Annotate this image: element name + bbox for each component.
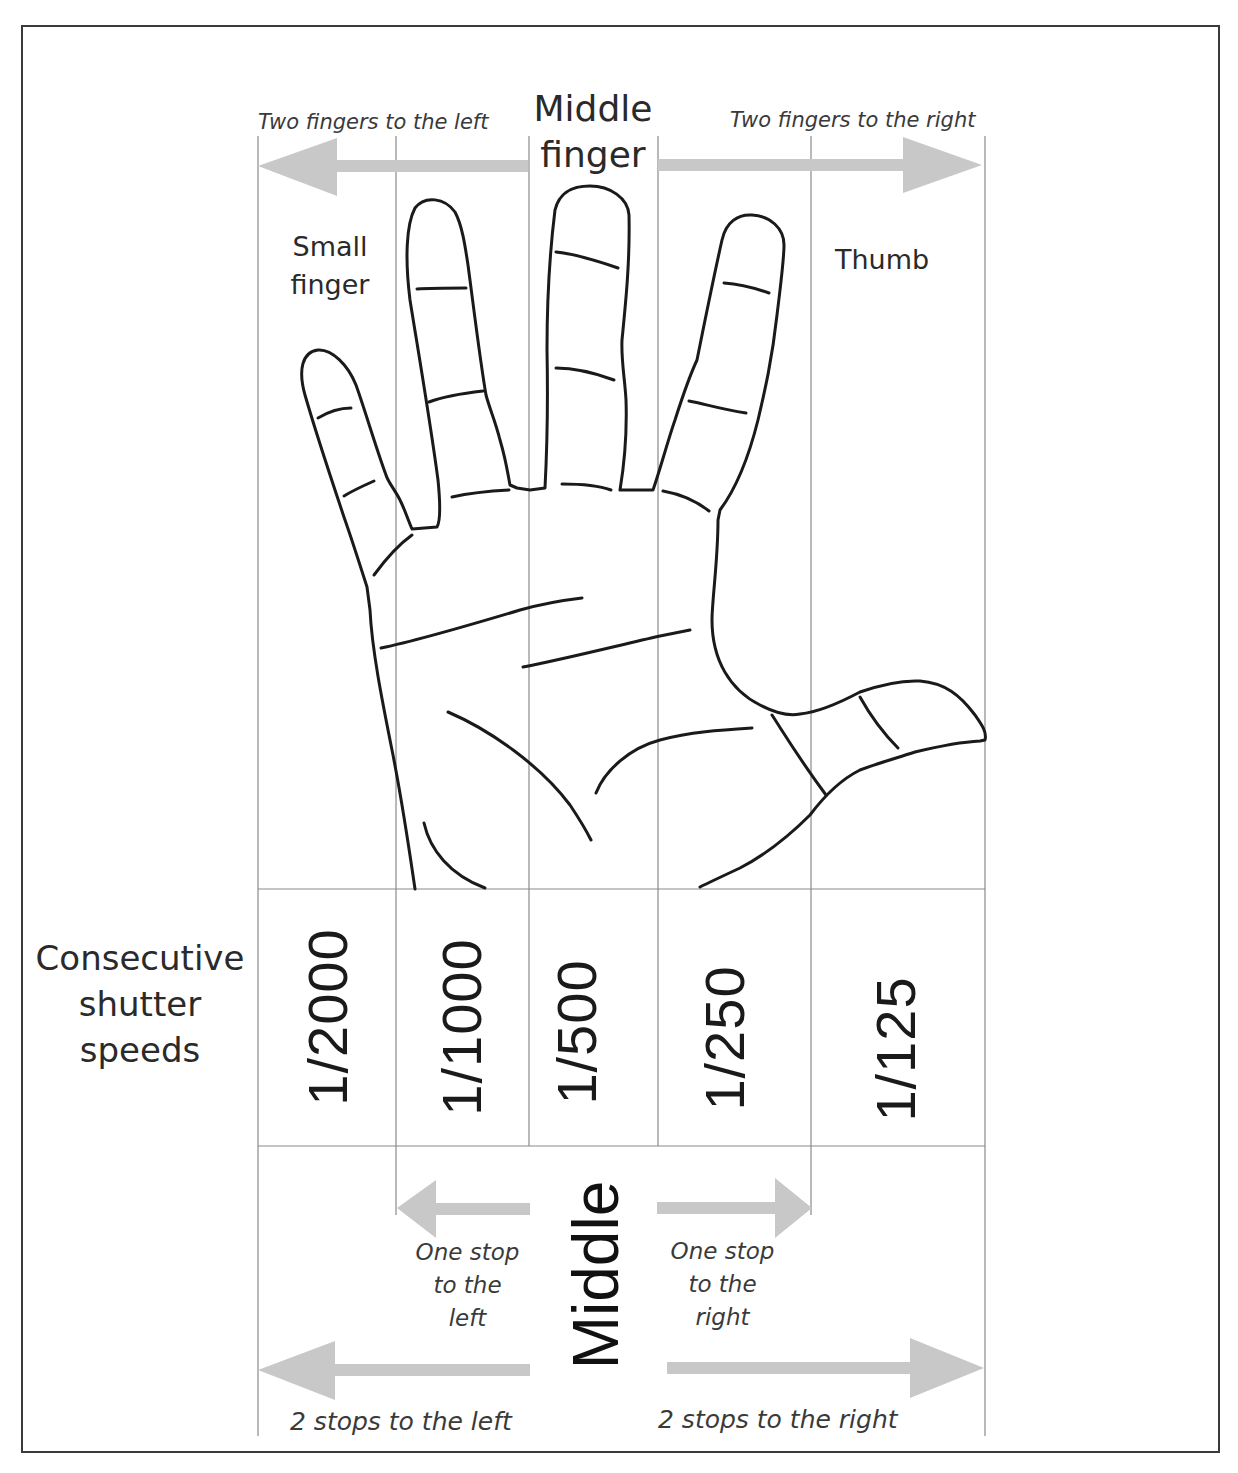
one-stop-left-line1: One stop bbox=[400, 1236, 535, 1269]
two-fingers-left-label: Two fingers to the left bbox=[258, 110, 488, 134]
hand-outline-icon bbox=[302, 186, 986, 889]
two-fingers-right-label: Two fingers to the right bbox=[730, 108, 975, 132]
two-stops-left-label: 2 stops to the left bbox=[290, 1408, 512, 1437]
top-right-arrow-icon bbox=[658, 137, 982, 193]
one-stop-right-line3: right bbox=[655, 1301, 790, 1334]
middle-finger-label-line1: Middle bbox=[528, 86, 658, 132]
small-finger-label: Small finger bbox=[280, 228, 380, 304]
middle-finger-label-line2: finger bbox=[528, 132, 658, 178]
shutter-speed-cell: 1/2000 bbox=[295, 917, 359, 1117]
row-label-line2: shutter bbox=[24, 981, 256, 1027]
small-finger-label-line2: finger bbox=[280, 266, 380, 304]
two-stops-right-label: 2 stops to the right bbox=[658, 1406, 898, 1435]
shutter-speeds-row-label: Consecutive shutter speeds bbox=[24, 935, 256, 1073]
one-stop-right-label: One stop to the right bbox=[655, 1235, 790, 1334]
middle-finger-label: Middle finger bbox=[528, 86, 658, 178]
shutter-speed-cell: 1/500 bbox=[544, 932, 608, 1132]
one-stop-left-line3: left bbox=[400, 1302, 535, 1335]
one-stop-right-line1: One stop bbox=[655, 1235, 790, 1268]
thumb-label: Thumb bbox=[835, 244, 929, 275]
row-label-line1: Consecutive bbox=[24, 935, 256, 981]
shutter-speed-cell: 1/1000 bbox=[429, 927, 493, 1127]
one-stop-right-line2: to the bbox=[655, 1268, 790, 1301]
shutter-speed-cell: 1/250 bbox=[692, 938, 756, 1138]
one-stop-left-line2: to the bbox=[400, 1269, 535, 1302]
one-stop-left-label: One stop to the left bbox=[400, 1236, 535, 1335]
one-stop-right-arrow-icon bbox=[657, 1178, 812, 1238]
two-stops-left-arrow-icon bbox=[258, 1341, 530, 1400]
one-stop-left-arrow-icon bbox=[397, 1180, 530, 1238]
small-finger-label-line1: Small bbox=[280, 228, 380, 266]
two-stops-right-arrow-icon bbox=[667, 1338, 984, 1398]
middle-vertical-label: Middle bbox=[559, 1155, 629, 1395]
top-left-arrow-icon bbox=[258, 138, 528, 196]
shutter-speed-cell: 1/125 bbox=[863, 949, 927, 1149]
row-label-line3: speeds bbox=[24, 1027, 256, 1073]
